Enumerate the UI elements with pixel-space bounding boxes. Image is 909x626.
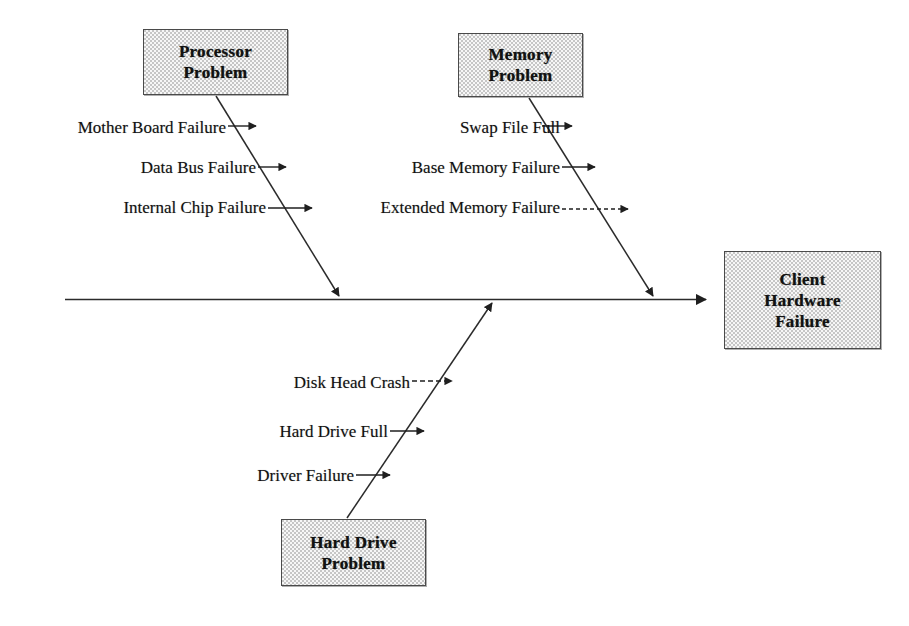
fishbone-diagram: Processor Problem Memory Problem Hard Dr… [0, 0, 909, 626]
cause-label-extended-memory-failure: Extended Memory Failure [310, 198, 560, 218]
cause-label-mother-board-failure: Mother Board Failure [32, 118, 226, 138]
category-box-processor-line-1: Processor [179, 41, 252, 62]
cause-label-driver-failure: Driver Failure [178, 466, 354, 486]
effect-box-line-1: Client [779, 269, 825, 290]
category-box-harddrive-line-2: Problem [321, 553, 385, 574]
cause-label-swap-file-full: Swap File Full [400, 118, 560, 138]
cause-label-base-memory-failure: Base Memory Failure [345, 158, 560, 178]
category-box-processor-line-2: Problem [183, 62, 247, 83]
category-box-memory[interactable]: Memory Problem [458, 33, 583, 97]
effect-box-line-3: Failure [775, 311, 830, 332]
category-box-memory-line-1: Memory [488, 44, 552, 65]
cause-label-hard-drive-full: Hard Drive Full [188, 422, 388, 442]
category-box-harddrive[interactable]: Hard Drive Problem [281, 519, 426, 586]
effect-box-line-2: Hardware [764, 290, 841, 311]
category-box-processor[interactable]: Processor Problem [143, 29, 288, 95]
effect-box[interactable]: Client Hardware Failure [724, 251, 881, 349]
cause-label-disk-head-crash: Disk Head Crash [198, 373, 410, 393]
cause-label-internal-chip-failure: Internal Chip Failure [62, 198, 266, 218]
branch-line-harddrive [347, 303, 492, 518]
category-box-harddrive-line-1: Hard Drive [310, 532, 397, 553]
cause-label-data-bus-failure: Data Bus Failure [72, 158, 256, 178]
category-box-memory-line-2: Problem [488, 65, 552, 86]
